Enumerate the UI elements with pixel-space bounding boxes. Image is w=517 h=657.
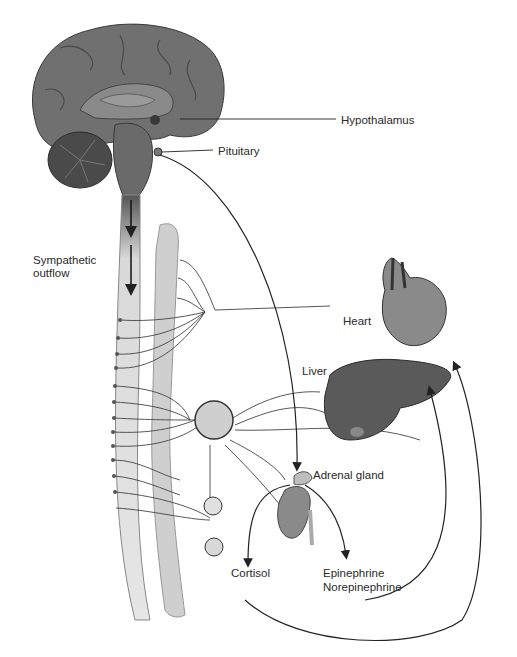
label-pituitary: Pituitary (218, 144, 260, 158)
label-hypothalamus: Hypothalamus (341, 113, 415, 127)
mesenteric-ganglion (204, 497, 222, 515)
brainstem (113, 123, 152, 200)
liver (324, 359, 450, 440)
label-heart: Heart (343, 314, 371, 328)
label-cortisol: Cortisol (231, 566, 270, 580)
label-norepinephrine: Norepinephrine (323, 580, 402, 594)
sympathetic-chain (152, 224, 185, 617)
spinal-cord (115, 195, 150, 620)
heart (382, 258, 446, 346)
label-sympathetic-outflow-1: Sympathetic (33, 253, 96, 267)
adrenal-kidney (278, 472, 312, 545)
celiac-ganglion (195, 401, 233, 439)
inferior-ganglion (205, 538, 223, 556)
label-liver: Liver (302, 364, 327, 378)
diagram-canvas (0, 0, 517, 657)
label-epinephrine: Epinephrine (323, 566, 384, 580)
label-sympathetic-outflow-2: outflow (33, 266, 69, 280)
label-adrenal-gland: Adrenal gland (313, 468, 384, 482)
hypothalamus-structure (150, 115, 160, 125)
